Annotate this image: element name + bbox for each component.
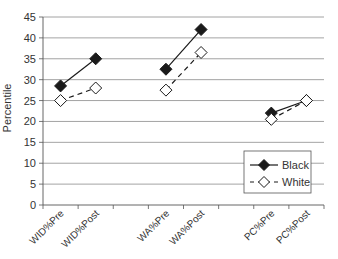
y-axis-label: Percentile xyxy=(1,84,13,133)
y-tick-label: 20 xyxy=(24,115,36,127)
open-diamond-marker xyxy=(160,84,172,96)
chart-canvas: 051015202530354045 WID%PreWID%PostWA%Pre… xyxy=(0,0,338,259)
y-tick-label: 35 xyxy=(24,53,36,65)
y-tick-label: 10 xyxy=(24,157,36,169)
filled-diamond-marker xyxy=(90,53,102,65)
y-tick-label: 5 xyxy=(30,178,36,190)
y-tick-label: 15 xyxy=(24,136,36,148)
y-tick-label: 45 xyxy=(24,11,36,23)
series-line xyxy=(61,88,96,101)
open-diamond-marker xyxy=(300,95,312,107)
open-diamond-marker xyxy=(55,95,67,107)
x-tick-label: WA%Pre xyxy=(135,207,172,244)
series-line xyxy=(166,30,201,70)
x-tick-label: WA%Post xyxy=(167,207,206,246)
y-tick-label: 25 xyxy=(24,95,36,107)
series-layer xyxy=(55,24,313,126)
series-line xyxy=(271,101,306,114)
legend-label: White xyxy=(282,176,310,188)
percentile-line-chart: 051015202530354045 WID%PreWID%PostWA%Pre… xyxy=(0,0,338,259)
y-tick-label: 40 xyxy=(24,32,36,44)
series-line xyxy=(271,101,306,120)
series-line xyxy=(166,53,201,91)
open-diamond-marker xyxy=(90,82,102,94)
x-tick-label: WID%Post xyxy=(59,207,101,249)
legend-label: Black xyxy=(282,159,309,171)
y-axis: 051015202530354045 xyxy=(24,11,43,211)
x-tick-label: PC%Post xyxy=(274,207,312,245)
legend: Black White xyxy=(244,151,311,193)
y-tick-label: 0 xyxy=(30,199,36,211)
y-tick-label: 30 xyxy=(24,74,36,86)
filled-diamond-marker xyxy=(55,80,67,92)
series-line xyxy=(61,59,96,86)
x-axis: WID%PreWID%PostWA%PreWA%PostPC%PrePC%Pos… xyxy=(27,205,324,250)
x-tick-label: PC%Pre xyxy=(242,207,277,242)
